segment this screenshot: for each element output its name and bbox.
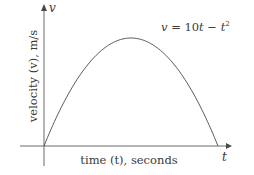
y-axis-label: velocity (v), m/s: [26, 30, 40, 123]
equation-label: v = 10t − t2: [161, 20, 230, 34]
velocity-time-chart: v t v = 10t − t2 time (t), seconds veloc…: [0, 0, 254, 175]
velocity-curve: [44, 38, 218, 146]
y-axis-arrow-icon: [41, 4, 47, 11]
x-axis-symbol: t: [222, 150, 227, 164]
x-axis-arrow-icon: [226, 143, 232, 149]
y-axis-symbol: v: [49, 1, 56, 15]
x-axis-label: time (t), seconds: [80, 153, 177, 167]
